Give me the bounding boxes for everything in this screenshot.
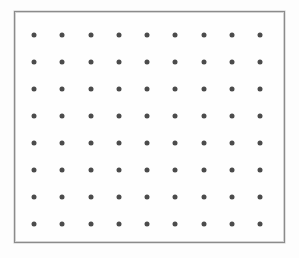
grid-dot <box>60 168 65 173</box>
grid-dot <box>88 222 93 227</box>
grid-dot <box>173 141 178 146</box>
grid-dot <box>60 33 65 38</box>
grid-dot <box>258 114 263 119</box>
grid-dot <box>201 87 206 92</box>
grid-dot <box>201 114 206 119</box>
grid-dot <box>32 114 37 119</box>
grid-dot <box>173 33 178 38</box>
grid-dot <box>145 141 150 146</box>
grid-dot <box>116 87 121 92</box>
grid-dot <box>229 195 234 200</box>
grid-dot <box>201 60 206 65</box>
grid-dot <box>88 195 93 200</box>
grid-dot <box>229 222 234 227</box>
grid-dot <box>173 60 178 65</box>
grid-dot <box>32 60 37 65</box>
grid-dot <box>258 87 263 92</box>
grid-dot <box>258 141 263 146</box>
grid-dot <box>60 222 65 227</box>
grid-dot <box>60 87 65 92</box>
grid-dot <box>60 114 65 119</box>
grid-dot <box>88 87 93 92</box>
grid-dot <box>145 114 150 119</box>
grid-dot <box>173 222 178 227</box>
grid-dot <box>201 168 206 173</box>
grid-dot <box>116 114 121 119</box>
grid-dot <box>145 222 150 227</box>
grid-dot <box>60 60 65 65</box>
grid-dot <box>116 60 121 65</box>
grid-dot <box>116 168 121 173</box>
grid-dot <box>173 114 178 119</box>
grid-dot <box>229 33 234 38</box>
grid-dot <box>32 33 37 38</box>
grid-dot <box>229 114 234 119</box>
grid-dot <box>229 141 234 146</box>
grid-dot <box>258 33 263 38</box>
grid-dot <box>229 60 234 65</box>
grid-dot <box>32 222 37 227</box>
grid-dot <box>145 33 150 38</box>
grid-dot <box>173 168 178 173</box>
grid-dot <box>258 195 263 200</box>
grid-dot <box>145 87 150 92</box>
grid-dot <box>116 195 121 200</box>
grid-dot <box>116 222 121 227</box>
dot-grid-figure <box>0 0 299 258</box>
grid-dot <box>60 141 65 146</box>
grid-dot <box>258 60 263 65</box>
grid-dot <box>32 168 37 173</box>
grid-dot <box>145 60 150 65</box>
grid-dot <box>201 222 206 227</box>
grid-dot <box>258 222 263 227</box>
grid-dot <box>32 195 37 200</box>
grid-dot <box>229 168 234 173</box>
grid-dot <box>88 168 93 173</box>
grid-dot <box>60 195 65 200</box>
grid-dot <box>32 87 37 92</box>
grid-dot <box>258 168 263 173</box>
grid-dot <box>229 87 234 92</box>
grid-dot <box>88 60 93 65</box>
grid-dot <box>201 33 206 38</box>
grid-dot <box>173 195 178 200</box>
grid-dot <box>145 168 150 173</box>
grid-dot <box>116 33 121 38</box>
grid-dot <box>88 33 93 38</box>
dot-grid-panel <box>14 11 285 243</box>
dot-lattice <box>15 12 284 242</box>
grid-dot <box>173 87 178 92</box>
grid-dot <box>116 141 121 146</box>
grid-dot <box>88 141 93 146</box>
grid-dot <box>145 195 150 200</box>
grid-dot <box>201 195 206 200</box>
grid-dot <box>88 114 93 119</box>
grid-dot <box>201 141 206 146</box>
grid-dot <box>32 141 37 146</box>
